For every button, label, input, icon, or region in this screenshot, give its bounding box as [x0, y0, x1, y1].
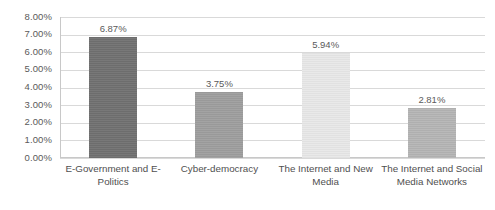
bar-value-label: 5.94% [312, 39, 339, 50]
bar-chart: 8.00%7.00%6.00%5.00%4.00%3.00%2.00%1.00%… [0, 0, 495, 210]
gridline [60, 158, 485, 159]
bar-series: 6.87%3.75%5.94%2.81% [60, 17, 485, 158]
bar-value-label: 2.81% [418, 94, 445, 105]
bar[interactable] [408, 108, 456, 158]
y-axis-tick-label: 8.00% [25, 12, 52, 22]
y-axis-tick-label: 7.00% [25, 29, 52, 39]
x-axis-category-label: The Internet and New Media [273, 163, 379, 188]
bar[interactable] [89, 37, 137, 158]
x-axis-category-label: The Internet and Social Media Networks [379, 163, 485, 188]
bar-slot: 2.81% [379, 17, 485, 158]
x-axis-labels: E-Government and E-PoliticsCyber-democra… [60, 163, 485, 207]
bar-slot: 3.75% [166, 17, 272, 158]
y-axis-tick-label: 6.00% [25, 47, 52, 57]
bar[interactable] [195, 92, 243, 158]
x-axis-category-label: E-Government and E-Politics [60, 163, 166, 188]
bar[interactable] [302, 53, 350, 158]
y-axis-tick-label: 4.00% [25, 82, 52, 92]
y-axis-tick-label: 0.00% [25, 153, 52, 163]
bar-slot: 5.94% [273, 17, 379, 158]
y-axis-tick-label: 2.00% [25, 117, 52, 127]
bar-value-label: 3.75% [206, 78, 233, 89]
x-axis-category-label: Cyber-democracy [166, 163, 272, 176]
y-axis-tick-label: 5.00% [25, 64, 52, 74]
bar-value-label: 6.87% [100, 23, 127, 34]
y-axis: 8.00%7.00%6.00%5.00%4.00%3.00%2.00%1.00%… [0, 0, 56, 210]
plot-area: 6.87%3.75%5.94%2.81% [60, 17, 485, 158]
y-axis-tick-label: 3.00% [25, 100, 52, 110]
bar-slot: 6.87% [60, 17, 166, 158]
y-axis-tick-label: 1.00% [25, 135, 52, 145]
